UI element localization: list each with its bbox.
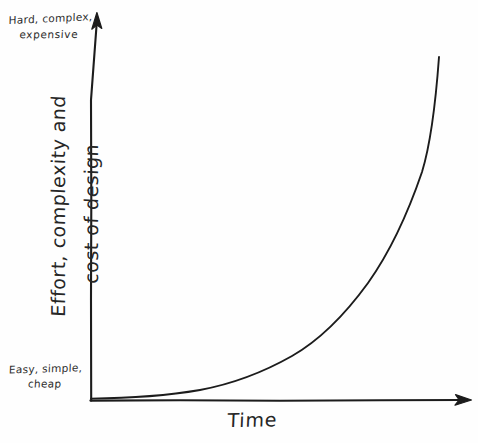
chart-figure: Hard, complex, expensive Easy, simple, c… <box>0 0 478 443</box>
y-axis-label-line1: Effort, complexity and <box>47 94 69 317</box>
exponential-curve <box>91 57 439 399</box>
low-end-annotation-line2: cheap <box>4 376 85 391</box>
high-end-annotation: Hard, complex, expensive <box>7 9 91 43</box>
high-end-annotation-line2: expensive <box>7 26 90 43</box>
y-axis-label-line2: cost of design <box>80 143 102 284</box>
low-end-annotation: Easy, simple, cheap <box>4 361 86 392</box>
x-axis-label: Time <box>227 408 278 431</box>
low-end-annotation-line1: Easy, simple, <box>5 360 86 378</box>
